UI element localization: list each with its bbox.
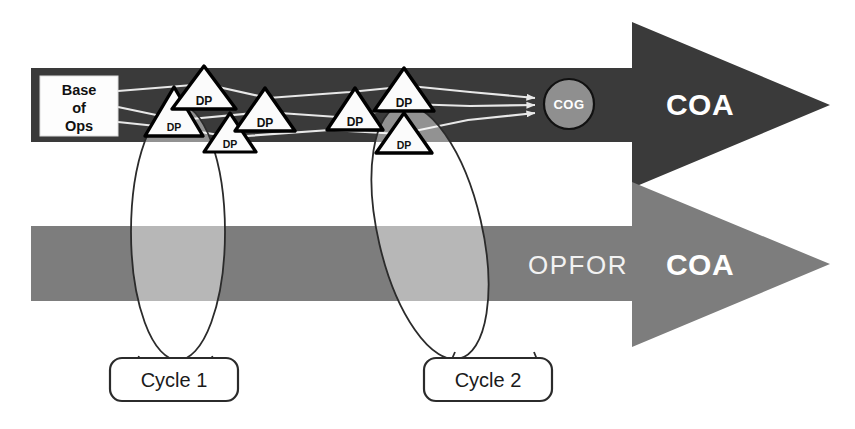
diagram-canvas: COG COA Base of Ops OPFOR COA DP DP <box>0 0 855 429</box>
opfor-coa-label: COA <box>666 248 734 281</box>
dp7-label: DP <box>397 139 412 151</box>
dp2-label: DP <box>196 94 213 108</box>
cycle-2-label: Cycle 2 <box>455 369 522 391</box>
cycle-2-callout[interactable]: Cycle 2 <box>424 358 552 401</box>
cycle-1-callout[interactable]: Cycle 1 <box>110 358 238 401</box>
friendly-coa-label: COA <box>666 88 734 121</box>
center-of-gravity-node[interactable]: COG <box>544 79 594 129</box>
dp4-label: DP <box>257 116 274 130</box>
dp5-label: DP <box>347 115 364 129</box>
base-of-ops-line1: Base <box>62 82 97 98</box>
opfor-force-label: OPFOR <box>528 250 628 280</box>
base-of-ops-box[interactable]: Base of Ops <box>40 76 118 136</box>
dp6-label: DP <box>396 96 413 110</box>
base-of-ops-line2: of <box>72 100 86 116</box>
dp3-label: DP <box>223 138 238 150</box>
cycle-1-label: Cycle 1 <box>141 369 208 391</box>
base-of-ops-line3: Ops <box>65 118 93 134</box>
operational-approach-diagram: COG COA Base of Ops OPFOR COA DP DP <box>0 0 855 429</box>
dp1-label: DP <box>167 121 182 133</box>
cog-label: COG <box>553 97 584 112</box>
